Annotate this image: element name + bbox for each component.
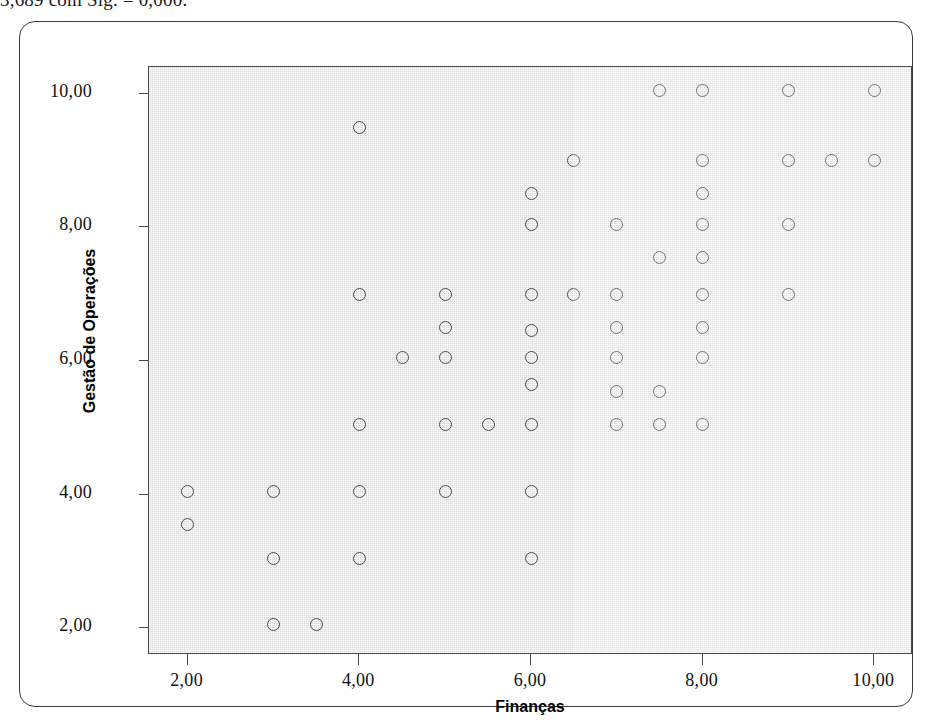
x-tick-label: 10,00 — [813, 670, 931, 691]
data-point — [353, 288, 366, 301]
data-point — [610, 288, 623, 301]
scatter-plot-panel — [148, 66, 912, 654]
data-point — [696, 218, 709, 231]
data-point — [439, 351, 452, 364]
x-tick-label: 4,00 — [298, 670, 418, 691]
y-tick-label: 6,00 — [0, 348, 92, 369]
y-tick-mark — [139, 93, 148, 94]
y-axis-title: Gestão de Operações — [81, 121, 99, 541]
data-point — [825, 154, 838, 167]
data-point — [696, 321, 709, 334]
data-point — [525, 418, 538, 431]
data-point — [653, 251, 666, 264]
x-tick-label: 2,00 — [127, 670, 247, 691]
data-point — [525, 218, 538, 231]
data-point — [525, 485, 538, 498]
data-point — [181, 518, 194, 531]
data-point — [610, 351, 623, 364]
x-tick-mark — [873, 654, 874, 665]
data-point — [396, 351, 409, 364]
data-point — [696, 84, 709, 97]
data-point — [267, 552, 280, 565]
x-tick-mark — [530, 654, 531, 665]
x-tick-label: 6,00 — [470, 670, 590, 691]
x-tick-label: 8,00 — [642, 670, 762, 691]
data-point — [353, 418, 366, 431]
data-point — [567, 154, 580, 167]
data-point — [181, 485, 194, 498]
data-point — [696, 187, 709, 200]
y-tick-label: 8,00 — [0, 214, 92, 235]
x-tick-mark — [702, 654, 703, 665]
data-point — [782, 84, 795, 97]
data-point — [696, 288, 709, 301]
data-point — [567, 288, 580, 301]
data-point — [525, 351, 538, 364]
y-tick-label: 2,00 — [0, 615, 92, 636]
data-point — [868, 84, 881, 97]
data-point — [525, 378, 538, 391]
data-point — [525, 288, 538, 301]
data-point — [696, 351, 709, 364]
data-point — [696, 418, 709, 431]
data-point — [353, 121, 366, 134]
data-point — [439, 321, 452, 334]
data-point — [868, 154, 881, 167]
data-point — [525, 324, 538, 337]
figure-card: 2,004,006,008,0010,00 2,004,006,008,0010… — [19, 21, 913, 707]
data-point — [782, 218, 795, 231]
data-point — [310, 618, 323, 631]
data-point — [353, 552, 366, 565]
clipped-caption-text: 3,689 com Sig. = 0,000. — [0, 0, 931, 11]
y-tick-label: 4,00 — [0, 482, 92, 503]
data-point — [267, 485, 280, 498]
x-axis-title: Finanças — [148, 698, 912, 716]
data-point — [782, 154, 795, 167]
data-point — [782, 288, 795, 301]
data-point — [525, 187, 538, 200]
data-point — [439, 418, 452, 431]
y-tick-mark — [139, 226, 148, 227]
data-point — [267, 618, 280, 631]
y-tick-mark — [139, 627, 148, 628]
y-tick-label: 10,00 — [0, 81, 92, 102]
data-point — [653, 418, 666, 431]
data-point — [525, 552, 538, 565]
data-point — [439, 485, 452, 498]
data-point — [482, 418, 495, 431]
y-tick-mark — [139, 494, 148, 495]
data-point — [610, 321, 623, 334]
data-point — [610, 418, 623, 431]
data-point — [653, 385, 666, 398]
data-point — [653, 84, 666, 97]
data-point — [439, 288, 452, 301]
y-tick-mark — [139, 360, 148, 361]
data-point — [696, 251, 709, 264]
data-point — [696, 154, 709, 167]
data-point — [610, 218, 623, 231]
x-tick-mark — [187, 654, 188, 665]
x-tick-mark — [358, 654, 359, 665]
data-point — [610, 385, 623, 398]
data-point — [353, 485, 366, 498]
